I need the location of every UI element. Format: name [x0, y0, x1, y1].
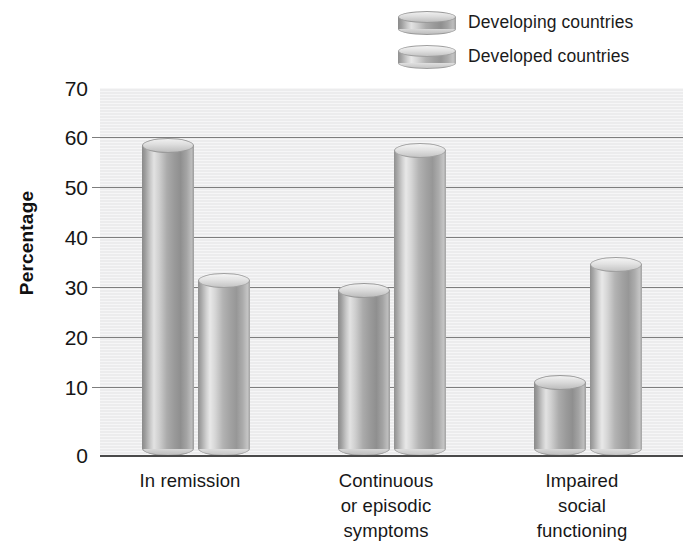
bar-in-remission-developing: [142, 138, 194, 456]
y-tick-mark-30: [92, 287, 100, 288]
legend-item-developed: Developed countries: [398, 40, 698, 74]
x-axis-label-continuous-symptoms: Continuous or episodic symptoms: [296, 468, 476, 543]
legend-swatch-developing-icon: [398, 11, 456, 35]
x-label-line: social: [492, 493, 672, 518]
y-tick-mark-20: [92, 337, 100, 338]
x-label-line: Impaired: [492, 468, 672, 493]
legend-swatch-developed-icon: [398, 45, 456, 69]
x-label-line: or episodic: [296, 493, 476, 518]
x-label-line: In remission: [100, 468, 280, 493]
y-tick-mark-10: [92, 387, 100, 388]
plot-area: [100, 88, 683, 456]
y-tick-20: 20: [28, 327, 88, 348]
chart-legend: Developing countries Developed countries: [398, 6, 698, 74]
x-axis-label-in-remission: In remission: [100, 468, 280, 493]
x-label-line: functioning: [492, 518, 672, 543]
x-axis-label-impaired-functioning: Impaired social functioning: [492, 468, 672, 543]
bar-continuous-symptoms-developed: [394, 143, 446, 456]
y-tick-mark-60: [92, 137, 100, 138]
y-tick-0: 0: [28, 445, 88, 466]
bar-continuous-symptoms-developing: [338, 283, 390, 456]
y-tick-60: 60: [28, 127, 88, 148]
y-tick-mark-50: [92, 187, 100, 188]
x-label-line: Continuous: [296, 468, 476, 493]
bar-impaired-functioning-developed: [590, 257, 642, 456]
y-tick-mark-40: [92, 237, 100, 238]
y-axis-title: Percentage: [16, 173, 38, 313]
legend-label-developing: Developing countries: [468, 14, 633, 32]
y-tick-70: 70: [28, 78, 88, 99]
legend-label-developed: Developed countries: [468, 48, 629, 66]
bar-impaired-functioning-developing: [534, 375, 586, 456]
bar-in-remission-developed: [198, 273, 250, 456]
x-label-line: symptoms: [296, 518, 476, 543]
x-axis-line: [100, 455, 683, 457]
bar-chart: Developing countries Developed countries: [0, 0, 700, 554]
legend-item-developing: Developing countries: [398, 6, 698, 40]
y-tick-10: 10: [28, 377, 88, 398]
